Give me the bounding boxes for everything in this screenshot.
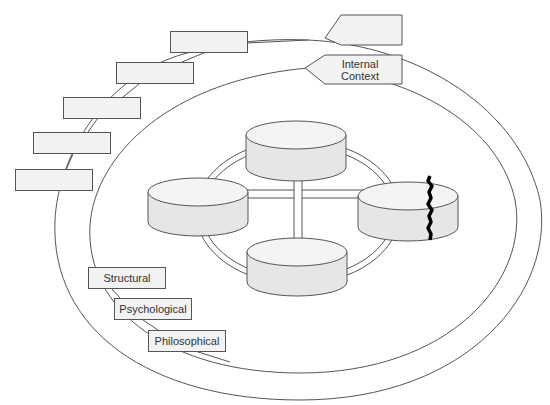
- diagram-svg: [0, 0, 550, 405]
- cylinder-right-cracked: [358, 176, 458, 241]
- cylinder-left: [148, 178, 248, 236]
- cylinder-bottom: [247, 238, 347, 296]
- top-callout-label: [341, 15, 402, 45]
- cylinder-top: [246, 121, 346, 181]
- outer-box-5: [15, 169, 93, 191]
- outer-box-3: [63, 97, 141, 119]
- philosophical-box: Philosophical: [148, 330, 226, 352]
- outer-box-4: [33, 132, 111, 154]
- psychological-box: Psychological: [114, 298, 192, 320]
- internal-context-label: InternalContext: [335, 56, 385, 84]
- outer-box-1: [170, 31, 248, 53]
- diagram-canvas: InternalContext Structural Psychological…: [0, 0, 550, 405]
- structural-box: Structural: [88, 267, 166, 289]
- outer-box-2: [116, 62, 194, 84]
